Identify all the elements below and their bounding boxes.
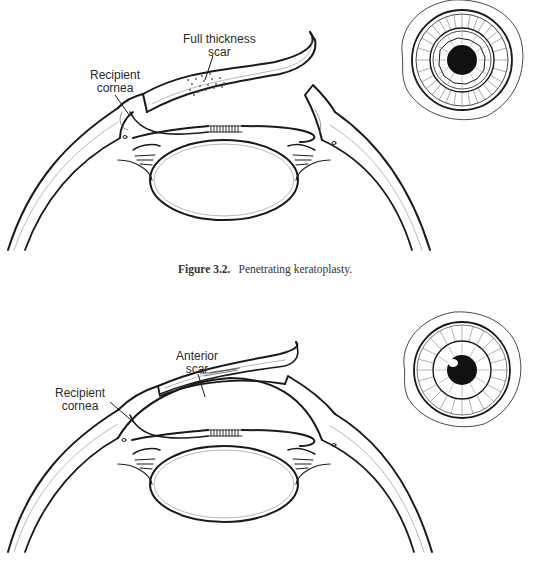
eye-cross-section-diagram (0, 0, 541, 290)
recipient-label-line-2-bottom: cornea (55, 400, 105, 413)
label-recipient-cornea-bottom: Recipient cornea (55, 387, 105, 413)
figure-penetrating-keratoplasty: Full thickness scar Recipient cornea Fig… (0, 0, 541, 290)
frontal-eye-inset-bottom (404, 312, 521, 427)
scar-leader-line (205, 56, 213, 80)
recipient-label-line-2: cornea (90, 82, 140, 95)
scar-label-line-2: scar (183, 46, 256, 59)
anterior-scar-label-line-2: scar (176, 363, 218, 376)
label-anterior-scar: Anterior scar (176, 350, 218, 376)
recipient-leader-line (115, 95, 130, 116)
caption-number: Figure 3.2. (178, 263, 231, 275)
eye-cross-section-diagram-bottom (0, 290, 541, 576)
clipped-figure-caption (180, 570, 380, 576)
caption-text: Penetrating keratoplasty. (239, 263, 353, 275)
label-full-thickness-scar: Full thickness scar (183, 33, 256, 59)
light-reflection (448, 359, 458, 367)
label-recipient-cornea-top: Recipient cornea (90, 69, 140, 95)
figure-lamellar-keratoplasty: Anterior scar Recipient cornea (0, 290, 541, 576)
figure-caption: Figure 3.2.Penetrating keratoplasty. (178, 263, 352, 275)
frontal-eye-inset-top (402, 0, 523, 120)
